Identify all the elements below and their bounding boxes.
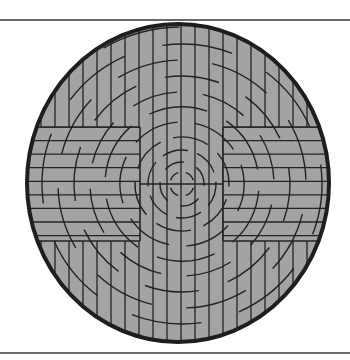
circular-grid-diagram (0, 0, 350, 360)
